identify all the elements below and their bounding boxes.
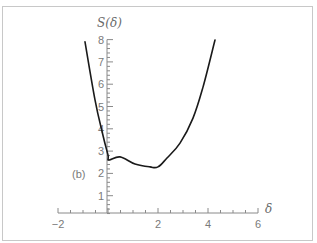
x-axis-title: δ [265, 202, 272, 216]
y-tick-label: 7 [98, 56, 104, 68]
y-tick-label: 2 [98, 167, 104, 179]
panel-label: (b) [72, 168, 85, 180]
ticks [58, 40, 258, 214]
y-tick-label: 8 [98, 34, 104, 46]
data-curve [85, 40, 215, 168]
x-tick-label: −2 [52, 218, 65, 230]
y-tick-label: 5 [98, 101, 104, 113]
x-tick-label: 2 [155, 218, 161, 230]
x-tick-label: 6 [255, 218, 261, 230]
y-tick-label: 1 [98, 190, 104, 202]
y-tick-label: 6 [98, 78, 104, 90]
axes [58, 40, 258, 213]
tick-labels: −224612345678 [52, 34, 261, 230]
chart-plot: −224612345678 S(δ) δ (b) [0, 0, 317, 243]
y-tick-label: 3 [98, 145, 104, 157]
y-axis-title: S(δ) [97, 16, 122, 30]
x-tick-label: 4 [205, 218, 211, 230]
